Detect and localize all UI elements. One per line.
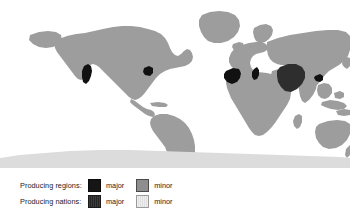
land-southeast-asia — [317, 83, 332, 99]
land-base-layer — [0, 11, 350, 168]
world-map-svg — [0, 0, 350, 168]
legend-swatch-regions-minor — [136, 179, 149, 192]
land-madagascar — [293, 114, 302, 129]
legend-title-producing-regions: Producing regions: — [20, 181, 86, 190]
land-central-america — [130, 99, 155, 117]
world-production-map-figure: Producing regions: major minor Producing… — [0, 0, 350, 221]
legend-row-producing-regions: Producing regions: major minor — [20, 178, 183, 193]
legend-label-regions-major: major — [106, 181, 124, 190]
land-philippines — [334, 91, 344, 99]
land-new-zealand — [345, 145, 350, 158]
land-north-america — [54, 26, 193, 100]
land-antarctica — [0, 150, 350, 168]
legend-swatch-regions-major — [88, 179, 101, 192]
legend-title-producing-nations: Producing nations: — [20, 197, 86, 206]
legend-label-nations-major: major — [106, 197, 124, 206]
legend-swatch-nations-minor — [136, 195, 149, 208]
map-panel — [0, 0, 350, 168]
land-indonesia — [321, 100, 347, 110]
legend-swatch-nations-major — [88, 195, 101, 208]
land-new-guinea — [336, 109, 350, 116]
map-legend: Producing regions: major minor Producing… — [0, 168, 350, 221]
land-australia — [315, 120, 350, 149]
legend-row-producing-nations: Producing nations: major minor — [20, 194, 183, 209]
land-scandinavia — [253, 24, 273, 43]
land-greenland — [199, 11, 240, 43]
land-caribbean — [150, 102, 168, 107]
legend-label-regions-minor: minor — [154, 181, 172, 190]
legend-label-nations-minor: minor — [154, 197, 172, 206]
